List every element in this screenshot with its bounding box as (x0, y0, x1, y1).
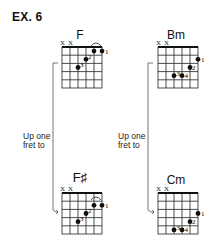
bracket-left (53, 63, 58, 214)
svg-text:2: 2 (192, 218, 196, 226)
chord-diagram-fsharp: 1 2 3 (60, 185, 109, 234)
chord-diagrams: X X 1 2 3 1 2 3 4 1 2 3 (0, 0, 214, 246)
svg-text:1: 1 (105, 202, 109, 210)
svg-text:4: 4 (185, 72, 189, 80)
svg-text:3: 3 (80, 215, 84, 223)
svg-text:3: 3 (80, 61, 84, 69)
bracket-right (148, 63, 154, 214)
svg-text:1: 1 (201, 56, 205, 64)
chord-diagram-bm: 1 2 3 4 (156, 39, 205, 88)
svg-text:2: 2 (88, 207, 92, 215)
chord-diagram-cm: 1 2 3 4 (156, 185, 205, 234)
chord-diagram-f: 1 2 3 (60, 39, 109, 88)
svg-text:2: 2 (192, 64, 196, 72)
svg-text:2: 2 (88, 53, 92, 61)
svg-text:4: 4 (185, 226, 189, 234)
svg-text:1: 1 (105, 48, 109, 56)
svg-text:1: 1 (201, 210, 205, 218)
